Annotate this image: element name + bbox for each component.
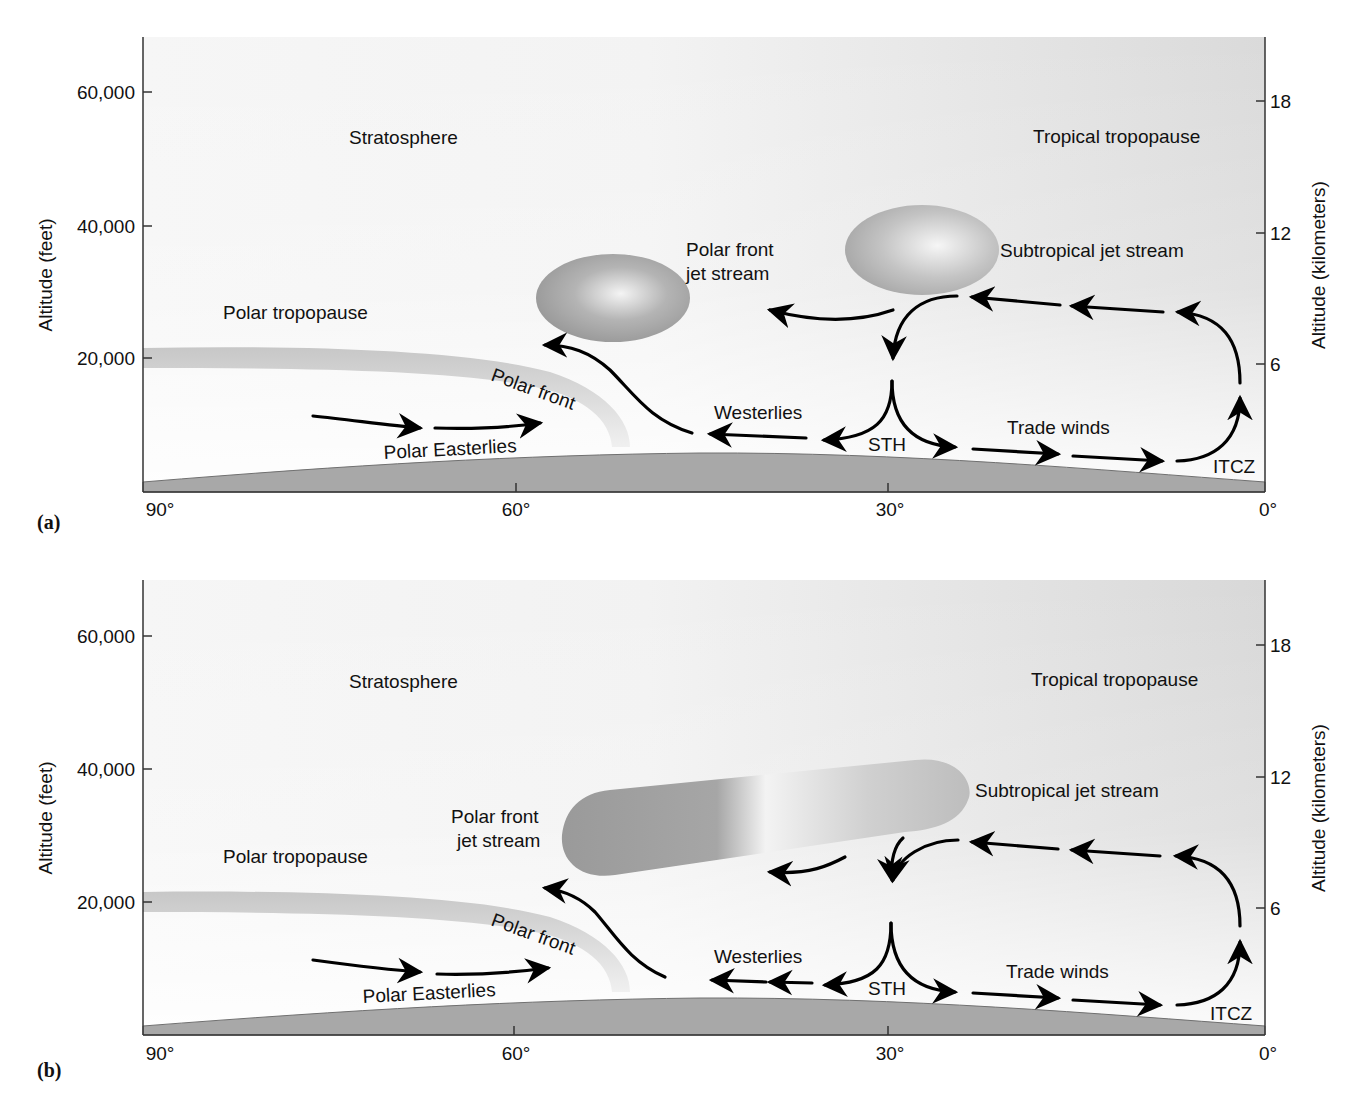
label-polar-front-jet-2: jet stream xyxy=(685,263,769,284)
label-itcz: ITCZ xyxy=(1210,1003,1253,1024)
right-tick-6: 6 xyxy=(1270,354,1281,375)
panel-tag: (b) xyxy=(37,1059,61,1082)
right-tick-12: 12 xyxy=(1270,223,1291,244)
label-tropical-tropopause: Tropical tropopause xyxy=(1031,669,1198,690)
right-axis-title: Altitude (kilometers) xyxy=(1308,181,1329,349)
label-sth: STH xyxy=(868,978,906,999)
panel-a-diagram: 60,000 40,000 20,000 Altitude (feet) 18 … xyxy=(0,0,1353,545)
x-tick-30: 30° xyxy=(876,499,905,520)
left-axis-title: Altitude (feet) xyxy=(35,219,56,332)
label-polar-front-jet-1: Polar front xyxy=(451,806,539,827)
label-tropical-tropopause: Tropical tropopause xyxy=(1033,126,1200,147)
x-tick-60: 60° xyxy=(502,1043,531,1064)
left-axis-title: Altitude (feet) xyxy=(35,762,56,875)
left-tick-20000: 20,000 xyxy=(77,348,135,369)
polar-front-jet-core xyxy=(536,254,690,342)
panel-b-diagram: 60,000 40,000 20,000 Altitude (feet) 18 … xyxy=(0,545,1353,1098)
label-subtropical-jet: Subtropical jet stream xyxy=(975,780,1159,801)
right-tick-12: 12 xyxy=(1270,767,1291,788)
label-westerlies: Westerlies xyxy=(714,946,802,967)
label-trade-winds: Trade winds xyxy=(1006,961,1109,982)
label-stratosphere: Stratosphere xyxy=(349,671,458,692)
label-westerlies: Westerlies xyxy=(714,402,802,423)
label-subtropical-jet: Subtropical jet stream xyxy=(1000,240,1184,261)
label-stratosphere: Stratosphere xyxy=(349,127,458,148)
right-tick-6: 6 xyxy=(1270,898,1281,919)
panel-tag: (a) xyxy=(37,511,60,534)
right-tick-18: 18 xyxy=(1270,91,1291,112)
left-tick-40000: 40,000 xyxy=(77,216,135,237)
x-tick-90: 90° xyxy=(146,1043,175,1064)
panel-b-merged-jets: 60,000 40,000 20,000 Altitude (feet) 18 … xyxy=(0,545,1353,1098)
label-polar-tropopause: Polar tropopause xyxy=(223,846,368,867)
label-sth: STH xyxy=(868,434,906,455)
label-itcz: ITCZ xyxy=(1213,456,1256,477)
panel-a-separate-jets: 60,000 40,000 20,000 Altitude (feet) 18 … xyxy=(0,0,1353,545)
left-tick-40000: 40,000 xyxy=(77,759,135,780)
right-axis-title: Altitude (kilometers) xyxy=(1308,724,1329,892)
left-tick-60000: 60,000 xyxy=(77,82,135,103)
x-tick-30: 30° xyxy=(876,1043,905,1064)
label-polar-tropopause: Polar tropopause xyxy=(223,302,368,323)
x-tick-0: 0° xyxy=(1259,499,1277,520)
label-polar-front-jet-2: jet stream xyxy=(456,830,540,851)
subtropical-jet-core xyxy=(845,205,999,295)
left-tick-20000: 20,000 xyxy=(77,892,135,913)
right-tick-18: 18 xyxy=(1270,635,1291,656)
label-polar-front-jet-1: Polar front xyxy=(686,239,774,260)
x-tick-0: 0° xyxy=(1259,1043,1277,1064)
x-tick-60: 60° xyxy=(502,499,531,520)
left-tick-60000: 60,000 xyxy=(77,626,135,647)
label-trade-winds: Trade winds xyxy=(1007,417,1110,438)
x-tick-90: 90° xyxy=(146,499,175,520)
